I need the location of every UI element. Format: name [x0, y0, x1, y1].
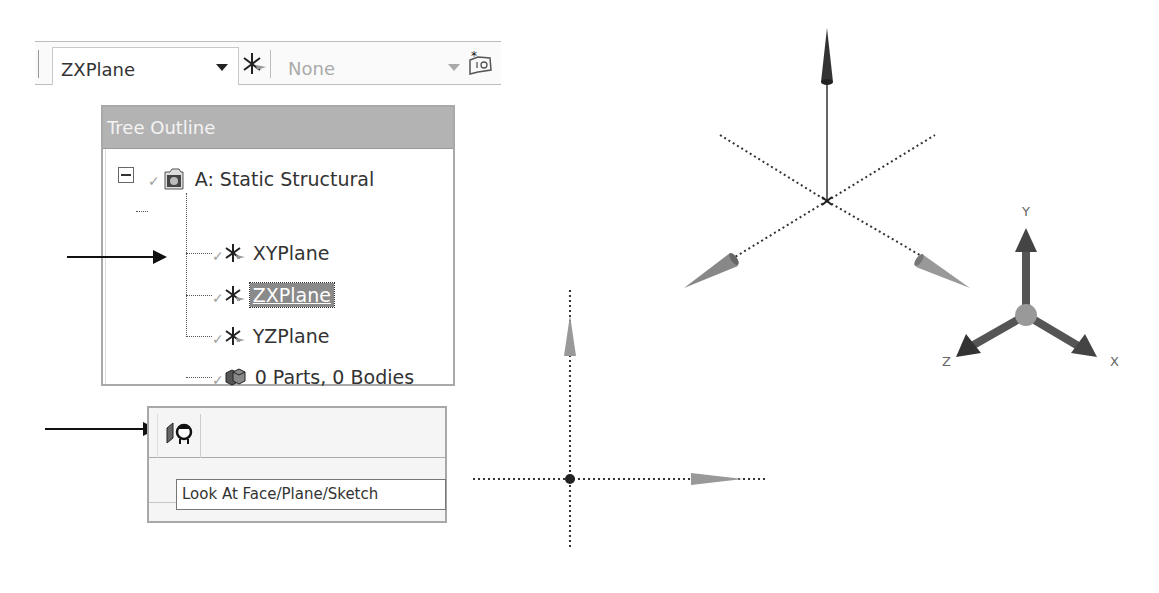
- tree-item-parts-bodies[interactable]: ✓ 0 Parts, 0 Bodies: [212, 362, 417, 392]
- tree-item-label: ZXPlane: [250, 283, 334, 307]
- tree-connector: [136, 211, 148, 212]
- tree-connector: [186, 336, 212, 337]
- normal-arrow-icon: [821, 28, 833, 85]
- sketch-dropdown[interactable]: None: [279, 47, 474, 85]
- parts-bodies-icon: [224, 367, 246, 387]
- tree-body: ✓ A: Static Structural ✓ XYPlane ✓: [105, 149, 451, 384]
- tree-item-label: 0 Parts, 0 Bodies: [252, 365, 417, 389]
- chevron-down-icon[interactable]: [216, 64, 228, 71]
- plane-normal-view: [460, 280, 780, 560]
- chevron-down-icon[interactable]: [448, 64, 460, 71]
- plane-icon: [224, 284, 246, 306]
- new-plane-button[interactable]: [242, 50, 268, 78]
- axis-cone-icon: [691, 473, 743, 485]
- tree-item-zxplane[interactable]: ✓ ZXPlane: [212, 280, 334, 310]
- tree-connector: [186, 295, 212, 296]
- tree-item-root[interactable]: ✓ A: Static Structural: [148, 164, 377, 194]
- sketch-dropdown-value: None: [288, 58, 335, 79]
- collapse-toggle[interactable]: [118, 167, 134, 183]
- look-at-toolrow: [149, 408, 445, 458]
- plane-toolbar: ZXPlane None *: [35, 41, 501, 85]
- axis-cone-icon: [564, 315, 576, 356]
- plane-axes-icon: [242, 50, 268, 78]
- tree-connector: [186, 193, 187, 337]
- toolbar-grip[interactable]: [38, 50, 39, 78]
- tree-item-label: YZPlane: [250, 324, 333, 348]
- tree-connector: [186, 377, 212, 378]
- check-icon: ✓: [212, 290, 224, 306]
- check-icon: ✓: [212, 372, 224, 388]
- look-at-icon: [164, 420, 196, 446]
- annotation-arrow: [45, 428, 145, 430]
- plane-icon: [224, 325, 246, 347]
- plane-dropdown[interactable]: ZXPlane: [52, 47, 239, 85]
- triad-label-z: Z: [942, 354, 951, 369]
- tree-item-label: A: Static Structural: [192, 167, 378, 191]
- check-icon: ✓: [212, 331, 224, 347]
- new-sketch-icon: *: [465, 48, 495, 78]
- model-icon: [162, 167, 184, 191]
- tree-item-label: XYPlane: [250, 241, 333, 265]
- axis-triad[interactable]: Y Z X: [920, 190, 1140, 380]
- tree-outline-panel: Tree Outline ✓ A: Static Structural ✓: [101, 105, 455, 386]
- plane-icon: [224, 242, 246, 264]
- toolbar-separator: [270, 50, 271, 78]
- tree-connector: [186, 253, 212, 254]
- check-icon: ✓: [148, 173, 160, 189]
- svg-text:*: *: [471, 49, 477, 63]
- check-icon: ✓: [212, 248, 224, 264]
- look-at-toolbar-panel: Look At Face/Plane/Sketch: [147, 406, 447, 523]
- look-at-tooltip: Look At Face/Plane/Sketch: [176, 479, 446, 510]
- triad-label-x: X: [1110, 354, 1119, 369]
- triad-label-y: Y: [1021, 204, 1030, 219]
- tree-item-yzplane[interactable]: ✓ YZPlane: [212, 321, 332, 351]
- tree-item-xyplane[interactable]: ✓ XYPlane: [212, 238, 332, 268]
- annotation-arrowhead: [153, 250, 167, 264]
- origin-point: [565, 474, 575, 484]
- look-at-button[interactable]: [157, 414, 201, 458]
- plane-dropdown-value: ZXPlane: [61, 59, 135, 80]
- tree-outline-title: Tree Outline: [103, 107, 453, 149]
- new-sketch-button[interactable]: *: [465, 48, 495, 78]
- annotation-arrow: [67, 256, 155, 258]
